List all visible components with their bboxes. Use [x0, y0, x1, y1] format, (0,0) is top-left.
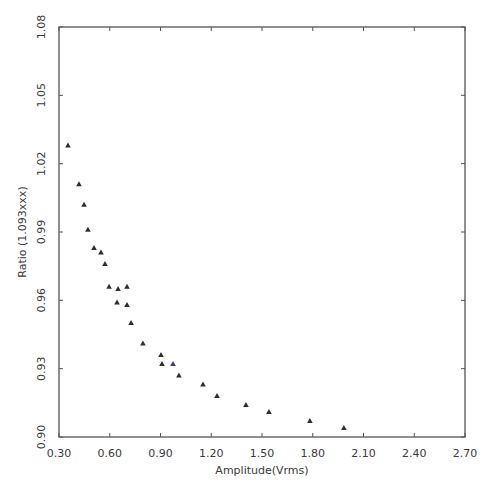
- triangle-marker-icon: [159, 361, 165, 366]
- scatter-chart: 0.300.600.901.201.501.802.102.402.70 0.9…: [0, 0, 497, 492]
- x-tick-label: 0.90: [148, 447, 173, 460]
- x-tick-label: 1.20: [199, 447, 224, 460]
- triangle-marker-icon: [91, 245, 97, 250]
- triangle-marker-icon: [128, 320, 134, 325]
- triangle-marker-icon: [214, 393, 220, 398]
- triangle-marker-icon: [341, 425, 347, 430]
- x-tick-label: 2.40: [402, 447, 427, 460]
- x-tick-label: 2.10: [351, 447, 376, 460]
- triangle-marker-icon: [200, 382, 206, 387]
- y-axis-title: Ratio (1.093xxx): [16, 186, 29, 277]
- triangle-marker-icon: [85, 227, 91, 232]
- triangle-marker-icon: [124, 302, 130, 307]
- y-tick-label: 1.02: [35, 151, 48, 176]
- triangle-marker-icon: [140, 341, 146, 346]
- triangle-marker-icon: [106, 284, 112, 289]
- triangle-marker-icon: [81, 202, 87, 207]
- triangle-marker-icon: [65, 142, 71, 147]
- x-tick-label: 1.50: [250, 447, 275, 460]
- x-tick-label: 0.60: [98, 447, 123, 460]
- y-tick-label: 1.05: [35, 83, 48, 108]
- x-tick-label: 0.30: [47, 447, 72, 460]
- triangle-marker-icon: [98, 250, 104, 255]
- triangle-marker-icon: [266, 409, 272, 414]
- data-points: [65, 142, 347, 429]
- triangle-marker-icon: [114, 300, 120, 305]
- y-tick-label: 1.08: [35, 15, 48, 40]
- x-tick-label: 1.80: [301, 447, 326, 460]
- x-axis: 0.300.600.901.201.501.802.102.402.70: [47, 27, 478, 460]
- triangle-marker-icon: [102, 261, 108, 266]
- y-axis: 0.900.930.960.991.021.051.08: [35, 15, 465, 450]
- triangle-marker-icon: [243, 402, 249, 407]
- triangle-marker-icon: [124, 284, 130, 289]
- triangle-marker-icon: [158, 352, 164, 357]
- x-axis-title: Amplitude(Vrms): [215, 464, 308, 477]
- y-tick-label: 0.96: [35, 288, 48, 313]
- plot-frame: [59, 27, 465, 437]
- triangle-marker-icon: [176, 373, 182, 378]
- triangle-marker-icon: [115, 286, 121, 291]
- x-tick-label: 2.70: [453, 447, 478, 460]
- triangle-marker-icon: [307, 418, 313, 423]
- triangle-marker-icon: [76, 181, 82, 186]
- y-tick-label: 0.99: [35, 220, 48, 245]
- triangle-marker-icon: [170, 361, 176, 366]
- y-tick-label: 0.93: [35, 356, 48, 381]
- y-tick-label: 0.90: [35, 425, 48, 450]
